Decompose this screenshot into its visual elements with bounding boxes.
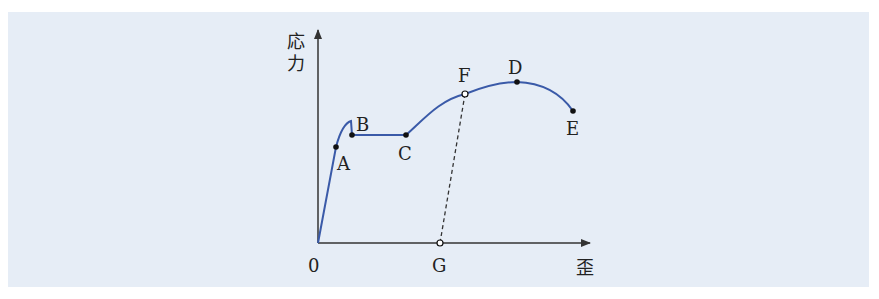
label-d: D: [508, 57, 522, 78]
origin-label: 0: [308, 255, 319, 276]
y-axis-label-1: 応: [287, 31, 305, 52]
label-g: G: [432, 255, 446, 276]
point-d-marker: [514, 79, 520, 85]
label-a: A: [336, 153, 351, 174]
point-b-marker: [349, 132, 355, 138]
point-g-marker: [437, 240, 443, 246]
y-axis-label-2: 力: [287, 53, 305, 74]
stress-strain-curve: [318, 82, 573, 243]
label-b: B: [356, 114, 369, 135]
x-axis-label: 歪: [576, 257, 594, 278]
label-f: F: [458, 65, 471, 86]
label-e: E: [566, 118, 579, 139]
point-e-marker: [570, 108, 576, 114]
point-c-marker: [403, 132, 409, 138]
label-c: C: [398, 143, 412, 164]
unloading-line: [440, 94, 465, 243]
point-f-marker: [462, 91, 468, 97]
stress-strain-diagram: 応 力 歪 0 A B C D E F G: [0, 0, 879, 299]
point-a-marker: [333, 144, 339, 150]
